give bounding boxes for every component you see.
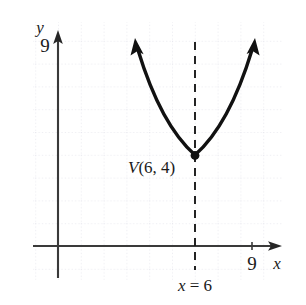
- vertex-point: [191, 151, 200, 160]
- graph-figure: y 9 x 9 V(6, 4) x = 6: [0, 0, 306, 305]
- axis-of-symmetry-label: x = 6: [177, 276, 212, 295]
- x-tick-label-9: 9: [247, 253, 257, 274]
- vertex-label-coords: (6, 4): [138, 158, 175, 177]
- y-tick-label-9: 9: [40, 35, 50, 56]
- axis-of-symmetry-label-eq: = 6: [185, 276, 212, 295]
- vertex-label: V(6, 4): [128, 158, 175, 177]
- parabola-graph-svg: y 9 x 9 V(6, 4) x = 6: [0, 0, 306, 305]
- x-axis-label: x: [272, 254, 281, 273]
- grid-area: [33, 22, 283, 280]
- cropped-text-remnant: [46, 0, 226, 11]
